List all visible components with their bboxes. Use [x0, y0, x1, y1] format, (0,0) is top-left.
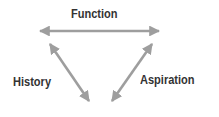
history-label: History	[13, 76, 51, 88]
aspiration-label: Aspiration	[140, 74, 195, 86]
function-label: Function	[71, 8, 118, 20]
history-double-arrow-icon	[50, 44, 89, 101]
triangle-diagram: Function History Aspiration	[0, 0, 219, 117]
